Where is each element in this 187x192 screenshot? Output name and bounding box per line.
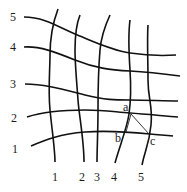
column-label: 1 — [52, 171, 58, 183]
column-label: 4 — [111, 171, 117, 183]
column-label: 3 — [94, 171, 100, 183]
segment-a-c — [131, 114, 149, 134]
point-label: c — [150, 135, 155, 147]
curvilinear-grid — [0, 0, 187, 192]
row-label: 4 — [10, 41, 16, 53]
point-label: a — [123, 101, 128, 113]
grid-diagram: 5432112345abc — [0, 0, 187, 192]
vertical-line-3 — [97, 15, 110, 162]
row-label: 3 — [10, 78, 16, 90]
row-label: 5 — [10, 11, 16, 23]
column-label: 2 — [79, 171, 85, 183]
row-label: 1 — [12, 143, 18, 155]
column-label: 5 — [138, 171, 144, 183]
horizontal-line-4 — [24, 47, 180, 76]
row-label: 2 — [11, 112, 17, 124]
horizontal-line-3 — [25, 84, 178, 101]
point-label: b — [115, 132, 121, 144]
